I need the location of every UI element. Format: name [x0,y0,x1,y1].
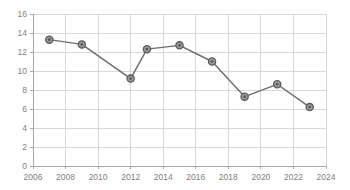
y-tick-label: 6 [22,104,27,114]
data-point-marker-center [243,95,246,98]
chart-canvas: 0246810121416 20062008201020122014201620… [0,0,350,190]
x-tick-label: 2016 [186,172,205,182]
y-tick-label: 12 [18,47,28,57]
data-series-line [49,40,309,107]
series-line-series-1 [49,40,309,107]
x-tick-label: 2018 [219,172,238,182]
x-tick-label: 2008 [56,172,75,182]
x-tick-label: 2010 [89,172,108,182]
line-chart: 0246810121416 20062008201020122014201620… [0,0,350,190]
y-tick-label: 0 [22,161,27,171]
y-tick-label: 14 [18,28,28,38]
y-tick-label: 8 [22,85,27,95]
y-axis-tick-labels: 0246810121416 [18,9,28,171]
data-point-marker-center [48,38,51,41]
data-point-marker-center [276,83,279,86]
y-tick-label: 2 [22,142,27,152]
y-tick-label: 4 [22,123,27,133]
x-tick-label: 2012 [121,172,140,182]
data-point-marker-center [129,77,132,80]
data-point-marker-center [81,43,84,46]
y-tick-label: 16 [18,9,28,19]
x-tick-label: 2020 [251,172,270,182]
data-point-marker-center [308,106,311,109]
x-tick-label: 2024 [317,172,336,182]
x-tick-label: 2022 [284,172,303,182]
x-axis-tick-labels: 2006200820102012201420162018202020222024 [24,172,336,182]
y-tick-label: 10 [18,66,28,76]
x-tick-label: 2006 [24,172,43,182]
data-point-marker-center [146,48,149,51]
gridlines-horizontal [33,14,326,166]
data-point-marker-center [178,44,181,47]
x-tick-label: 2014 [154,172,173,182]
data-point-marker-center [211,60,214,63]
